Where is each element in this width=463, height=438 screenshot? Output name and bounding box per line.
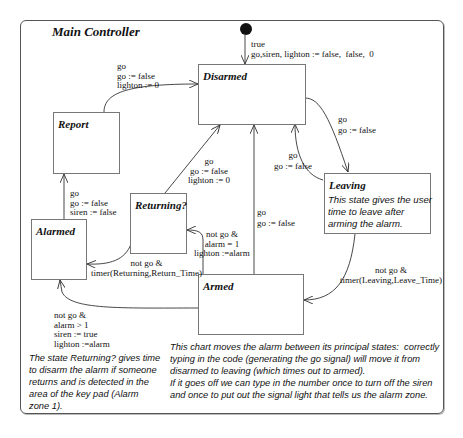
transition-label-alarmed-report: go go := false siren := false [70, 189, 117, 218]
transition-label-armed-alarmed: not go & alarm > 1 siren := true lighton… [54, 311, 110, 349]
note-chart-description: This chart moves the alarm between its p… [170, 341, 439, 401]
state-alarmed[interactable]: Alarmed [31, 219, 87, 280]
state-description: This state gives the user time to leave … [328, 194, 432, 229]
initial-state-dot [240, 23, 252, 35]
transition-label-leaving-disarmed: go go := false [274, 150, 312, 172]
statechart-canvas: Main Controller true go,siren, lighton [0, 0, 463, 438]
state-returning[interactable]: Returning? [130, 193, 187, 254]
state-leaving[interactable]: Leaving This state gives the user time t… [324, 173, 431, 234]
transition-label-leaving-armed: not go & timer(Leaving,Leave_Time) [340, 266, 442, 285]
state-report[interactable]: Report [53, 112, 120, 174]
transition-label-report-disarmed: go go := false lighton := 0 [117, 62, 159, 91]
state-name: Report [58, 118, 89, 130]
state-name: Returning? [135, 199, 187, 211]
transition-label-returning-alarmed: not go & timer(Returning,Return_Time) [91, 259, 202, 278]
state-name: Leaving [329, 179, 366, 191]
transition-label-armed-returning: not go & alarm = 1 lighton :=alarm [194, 230, 250, 259]
transition-label-disarmed-leaving: go go := false [338, 114, 376, 136]
state-name: Disarmed [203, 70, 247, 82]
note-returning: The state Returning? gives time to disar… [29, 352, 160, 412]
state-disarmed[interactable]: Disarmed [198, 64, 306, 125]
state-name: Armed [203, 280, 234, 292]
state-armed[interactable]: Armed [198, 274, 304, 335]
transition-label-armed-disarmed: go go := false [257, 207, 295, 229]
state-name: Alarmed [36, 225, 75, 237]
initial-transition-label: true go,siren, lighton := false, false, … [251, 40, 374, 59]
transition-label-returning-disarmed: go go := false lighton := 0 [188, 157, 230, 186]
